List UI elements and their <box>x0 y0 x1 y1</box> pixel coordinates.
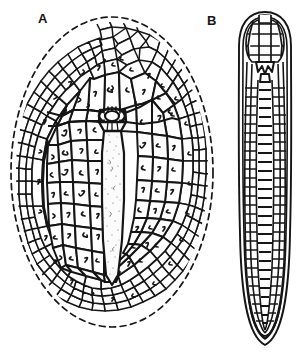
figure-a-group <box>11 17 213 327</box>
figure-b-anterior-cap <box>246 19 284 62</box>
figure-a-label: A <box>38 12 48 25</box>
figure-a-central-ring <box>99 107 126 131</box>
figure-b-label: B <box>207 14 217 27</box>
figure-plate: A B <box>0 0 307 353</box>
figure-b-apical-knob <box>259 14 271 23</box>
figure-b-group <box>239 12 292 345</box>
line-drawing-canvas <box>0 0 307 353</box>
